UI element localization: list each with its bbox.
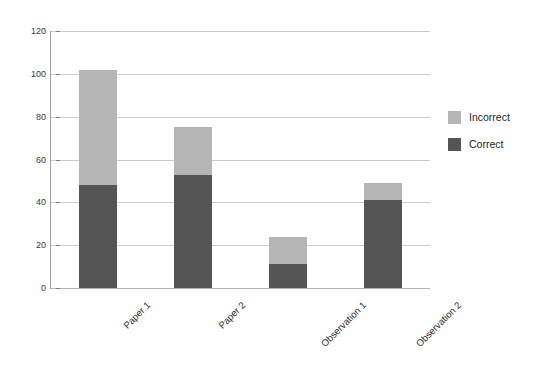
y-tick-label: 100 — [12, 70, 46, 79]
bars-layer — [50, 31, 430, 288]
x-tick-label: Observation 1 — [319, 300, 368, 349]
y-tick-label: 40 — [12, 198, 46, 207]
bar-segment-correct — [79, 185, 117, 288]
bar-observation-1 — [269, 31, 307, 288]
y-tick-label: 80 — [12, 113, 46, 122]
bar-segment-correct — [174, 175, 212, 289]
legend-swatch-icon — [448, 138, 461, 151]
y-tick-label: 60 — [12, 156, 46, 165]
bar-segment-correct — [364, 200, 402, 288]
x-axis-baseline — [50, 288, 430, 289]
bar-paper-1 — [79, 31, 117, 288]
legend-swatch-icon — [448, 111, 461, 124]
y-tick-label: 120 — [12, 27, 46, 36]
x-tick-label: Paper 1 — [121, 300, 151, 330]
x-tick-label: Observation 2 — [414, 300, 463, 349]
bar-segment-incorrect — [269, 237, 307, 265]
bar-observation-2 — [364, 31, 402, 288]
legend-label: Correct — [469, 139, 503, 150]
bar-paper-2 — [174, 31, 212, 288]
bar-segment-correct — [269, 264, 307, 288]
chart-legend: IncorrectCorrect — [448, 110, 510, 164]
stacked-bar-chart: 020406080100120 Paper 1Paper 2Observatio… — [0, 0, 553, 371]
bar-segment-incorrect — [174, 127, 212, 174]
y-tick-mark — [56, 288, 60, 289]
legend-item: Correct — [448, 137, 510, 151]
legend-label: Incorrect — [469, 112, 510, 123]
bar-segment-incorrect — [79, 70, 117, 186]
y-tick-label: 20 — [12, 241, 46, 250]
y-tick-label: 0 — [12, 284, 46, 293]
x-tick-label: Paper 2 — [216, 300, 246, 330]
bar-segment-incorrect — [364, 183, 402, 200]
legend-item: Incorrect — [448, 110, 510, 124]
y-axis-ticks: 020406080100120 — [6, 31, 46, 288]
